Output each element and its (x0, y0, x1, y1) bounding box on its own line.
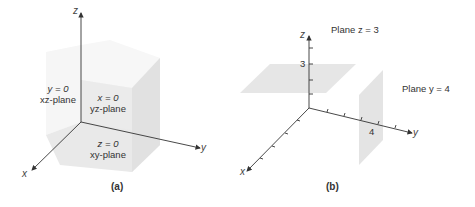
plane-y4 (359, 70, 383, 165)
y-axis-label-a: y (201, 142, 206, 153)
caption-b: (b) (326, 181, 339, 192)
plane-z3 (240, 64, 356, 93)
plane-z3-label: Plane z = 3 (331, 24, 379, 35)
xy-plane-label: z = 0 xy-plane (84, 138, 132, 160)
x-axis-label-b: x (240, 166, 245, 177)
caption-a: (a) (111, 181, 123, 192)
plane-y4-label: Plane y = 4 (402, 83, 450, 94)
y-axis-label-b: y (413, 127, 418, 138)
xz-plane-name: xz-plane (40, 94, 76, 105)
xz-plane-label: y = 0 xz-plane (34, 83, 82, 105)
y-tick-label-4: 4 (369, 126, 374, 137)
xz-plane-eq: y = 0 (48, 83, 69, 94)
xy-plane-eq: z = 0 (98, 138, 119, 149)
z-axis-label-b: z (300, 29, 305, 40)
yz-plane-name: yz-plane (90, 103, 126, 114)
z-axis-label-a: z (73, 5, 78, 16)
z-tick-label-3: 3 (300, 58, 305, 69)
yz-plane-eq: x = 0 (98, 92, 119, 103)
yz-plane-label: x = 0 yz-plane (84, 92, 132, 114)
axes-b (247, 36, 412, 171)
xy-plane-name: xy-plane (90, 149, 126, 160)
x-axis-label-a: x (22, 168, 27, 179)
